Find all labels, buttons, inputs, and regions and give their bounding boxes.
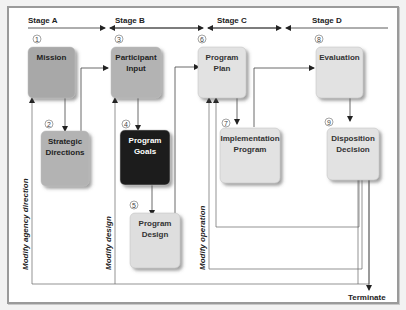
node-label: Directions	[45, 148, 85, 157]
program-lifecycle-diagram: Stage A Stage B Stage C Stage D Modify	[0, 0, 406, 310]
node-4: ProgramGoals4	[120, 120, 170, 185]
node-6: ProgramPlan6	[198, 35, 246, 98]
terminate-label: Terminate	[348, 293, 386, 302]
step-number: 8	[317, 36, 321, 43]
node-9: DispositionDecision9	[325, 118, 379, 180]
node-label: Program	[129, 136, 162, 145]
node-label: Program	[234, 145, 267, 154]
feedback-modify-operation	[209, 98, 362, 269]
node-label: Decision	[336, 145, 369, 154]
node-label: Disposition	[331, 134, 375, 143]
node-3: ParticipantInput3	[111, 35, 161, 98]
node-label: Program	[139, 219, 172, 228]
node-label: Evaluation	[319, 53, 360, 62]
connector-2-3	[81, 68, 108, 131]
modify-design-label: Modify design	[104, 216, 113, 270]
step-number: 3	[117, 36, 121, 43]
stage-a-label: Stage A	[28, 16, 58, 25]
node-label: Participant	[115, 53, 157, 62]
node-8: Evaluation8	[315, 35, 363, 98]
connector-5-6	[175, 67, 199, 213]
step-number: 1	[35, 36, 39, 43]
modify-agency-direction-label: Modify agency direction	[21, 178, 30, 270]
stage-c-label: Stage C	[217, 16, 247, 25]
node-label: Design	[142, 230, 169, 239]
node-7: ImplementationProgram7	[220, 119, 280, 183]
node-label: Input	[126, 64, 146, 73]
node-label: Strategic	[48, 137, 83, 146]
connector-7-8	[254, 68, 314, 127]
node-label: Goals	[134, 147, 157, 156]
step-number: 5	[132, 202, 136, 209]
modify-operation-label: Modify operation	[198, 205, 207, 270]
step-number: 4	[124, 121, 128, 128]
step-number: 7	[224, 120, 228, 127]
node-label: Program	[206, 53, 239, 62]
node-label: Mission	[37, 53, 67, 62]
stage-b-label: Stage B	[115, 16, 145, 25]
stage-d-label: Stage D	[312, 16, 342, 25]
node-5: ProgramDesign5	[130, 201, 180, 268]
step-number: 2	[47, 121, 51, 128]
step-number: 6	[200, 36, 204, 43]
node-label: Implementation	[220, 134, 279, 143]
node-label: Plan	[214, 64, 231, 73]
step-number: 9	[327, 119, 331, 126]
node-1: Mission1	[28, 35, 75, 98]
